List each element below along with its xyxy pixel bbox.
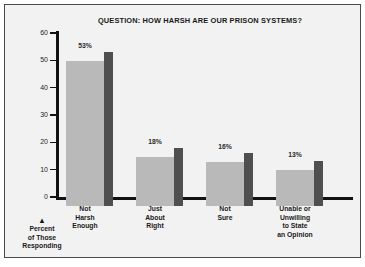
category-label-line: an Opinion [277,231,313,238]
bar-value-label: 16% [195,143,255,150]
y-axis-tick-label: 60 [24,29,48,36]
bar-value-label: 13% [265,151,325,158]
category-label: JustAboutRight [118,205,192,231]
y-axis-tick [50,142,56,144]
bar-side-face [174,157,183,206]
y-axis-tick-label: 30 [24,111,48,118]
y-axis-line [56,31,59,199]
chart-frame: QUESTION: HOW HARSH ARE OUR PRISON SYSTE… [4,4,361,258]
y-axis-tick-label: 20 [24,138,48,145]
category-label-line: Right [146,222,163,229]
y-axis-tick-label: 40 [24,83,48,90]
category-label-line: Unable or [279,205,310,212]
bar-top-face [104,52,113,61]
y-axis-tick [50,87,56,89]
y-axis-caption-line: Percent [30,225,55,232]
chart-title: QUESTION: HOW HARSH ARE OUR PRISON SYSTE… [75,16,325,25]
category-label-line: Unwilling [280,214,310,221]
bar [66,52,113,206]
category-label-line: Not [219,205,230,212]
triangle-marker-icon: ▲ [11,217,73,225]
y-axis-tick-label: 10 [24,165,48,172]
bar-value-label: 18% [125,138,185,145]
y-axis-tick [50,114,56,116]
y-axis-caption-line: Responding [22,242,61,249]
bar-side-face [314,170,323,206]
y-axis-caption-text: Percentof ThoseResponding [22,225,61,249]
category-label-line: Harsh [75,214,94,221]
y-axis-tick [50,60,56,62]
category-label-line: About [145,214,165,221]
bar-side-face [104,61,113,206]
category-label: NotSure [188,205,262,222]
bar-side-face [244,162,253,206]
bar [276,161,323,206]
bar-front-face [136,157,174,206]
y-axis-tick [50,32,56,34]
bar-value-label: 53% [55,42,115,49]
bar-front-face [276,170,314,206]
category-label-line: Enough [72,222,97,229]
y-axis-tick [50,196,56,198]
category-label-line: Sure [217,214,232,221]
bar [206,153,253,206]
bar-front-face [206,162,244,206]
category-label-line: Not [79,205,90,212]
y-axis-caption: ▲ Percentof ThoseResponding [11,217,73,251]
bar [136,148,183,206]
y-axis-tick-label: 50 [24,56,48,63]
bar-front-face [66,61,104,206]
bar-top-face [244,153,253,162]
category-label-line: to State [283,222,308,229]
category-label-line: Just [148,205,162,212]
y-axis-caption-line: of Those [28,234,56,241]
y-axis-tick [50,169,56,171]
bar-top-face [314,161,323,170]
category-label: Unable orUnwillingto Statean Opinion [258,205,332,239]
y-axis-tick-label: 0 [24,193,48,200]
bar-top-face [174,148,183,157]
